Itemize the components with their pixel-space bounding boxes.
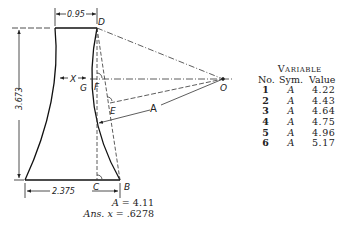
answer-line: Ans. x = .6278 [82, 208, 154, 219]
answer-equation: = .6278 [116, 208, 154, 219]
row-sym: A [279, 138, 309, 149]
table-row: 6 A 5.17 [258, 138, 335, 149]
point-label-c: C [93, 182, 100, 192]
row-sym: A [279, 96, 309, 107]
dimension-bottom-width: 2.375 [52, 187, 75, 196]
point-label-o: O [220, 83, 227, 93]
label-x: X [69, 74, 77, 84]
given-label: A [112, 197, 119, 208]
label-a: A [150, 103, 157, 114]
row-sym: A [279, 106, 309, 117]
dimension-height: 3.673 [15, 87, 24, 110]
answer-block: A = 4.11 Ans. x = .6278 [82, 197, 154, 219]
table-row: 4 A 4.75 [258, 117, 335, 128]
row-sym: A [279, 85, 309, 96]
row-no: 4 [258, 117, 279, 128]
variable-table-title: Variable [258, 64, 335, 75]
dimension-top-width: 0.95 [67, 10, 85, 19]
point-label-g: G [80, 83, 87, 93]
given-equation: = 4.11 [122, 197, 154, 208]
variable-table: Variable No. Sym. Value 1 A 4.22 2 A 4.4… [258, 64, 335, 149]
row-sym: A [279, 128, 309, 139]
curved-profile-shape [25, 28, 120, 180]
point-label-f: F [94, 82, 100, 92]
row-no: 6 [258, 138, 279, 149]
row-value: 5.17 [309, 138, 335, 149]
header-sym: Sym. [279, 75, 309, 86]
row-sym: A [279, 117, 309, 128]
answer-label: Ans. x [84, 208, 113, 219]
point-label-d: D [98, 17, 105, 27]
dimension-lines [12, 8, 120, 198]
construction-lines [90, 28, 232, 180]
row-value: 4.75 [309, 117, 335, 128]
given-value-line: A = 4.11 [82, 197, 154, 208]
point-label-b: B [124, 182, 130, 192]
point-label-e: E [110, 106, 116, 116]
